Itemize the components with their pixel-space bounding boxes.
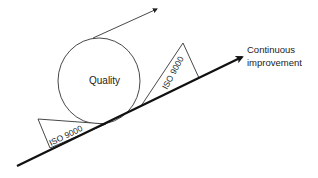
continuous-improvement-label-line2: improvement	[247, 57, 302, 68]
quality-label: Quality	[89, 75, 120, 86]
quality-improvement-diagram: Quality ISO 9000 ISO 9000 Continuous imp…	[0, 0, 318, 178]
continuous-improvement-label-line1: Continuous	[247, 44, 295, 55]
momentum-arrow	[93, 9, 157, 38]
continuous-improvement-arrow	[17, 57, 242, 166]
